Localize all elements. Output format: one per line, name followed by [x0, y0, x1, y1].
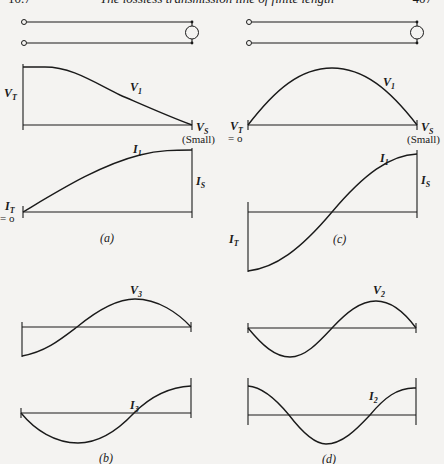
load-icon	[186, 26, 199, 39]
terminal-icon	[22, 20, 27, 25]
load-icon	[411, 26, 424, 39]
label-v3: V3	[130, 283, 142, 299]
caption-c: (c)	[333, 232, 346, 246]
caption-d: (d)	[322, 452, 336, 464]
label-it-zero: = o	[0, 212, 15, 224]
label-v1-c: V1	[383, 75, 395, 91]
label-is: IS	[195, 174, 206, 190]
panel-d-current: I2 (d)	[248, 378, 416, 464]
panel-b-voltage: V3	[22, 283, 191, 357]
panel-a-current: I1 IS IT = o (a)	[0, 142, 206, 245]
panel-c-voltage: V1 VT = o VS (Small)	[228, 68, 440, 146]
terminal-icon	[22, 41, 27, 46]
label-i2: I2	[368, 389, 378, 405]
label-vt-zero: = o	[228, 132, 243, 144]
label-i3: I3	[129, 398, 139, 414]
panel-b-current: I3 (b)	[21, 378, 191, 464]
label-small-c: (Small)	[407, 133, 440, 146]
caption-a: (a)	[100, 231, 114, 245]
caption-b: (b)	[99, 451, 113, 464]
label-it-c: IT	[228, 232, 240, 248]
label-is-c: IS	[420, 173, 431, 189]
label-i1-c: I1	[379, 151, 389, 167]
label-v2: V2	[373, 283, 385, 299]
label-v1: V1	[130, 80, 142, 96]
panel-c-current: I1 IS IT (c)	[228, 150, 431, 272]
line-schematic-right	[247, 20, 424, 46]
standing-wave-figure: VT V1 VS (Small) I1 IS IT = o (a) V1 VT …	[0, 0, 444, 464]
terminal-icon	[247, 20, 252, 25]
label-vt: VT	[4, 86, 18, 102]
line-schematic-left	[22, 20, 199, 46]
panel-a-voltage: VT V1 VS (Small)	[4, 64, 215, 146]
label-i1: I1	[132, 142, 142, 158]
label-small: (Small)	[182, 133, 215, 146]
terminal-icon	[247, 41, 252, 46]
panel-d-voltage: V2	[248, 283, 416, 357]
